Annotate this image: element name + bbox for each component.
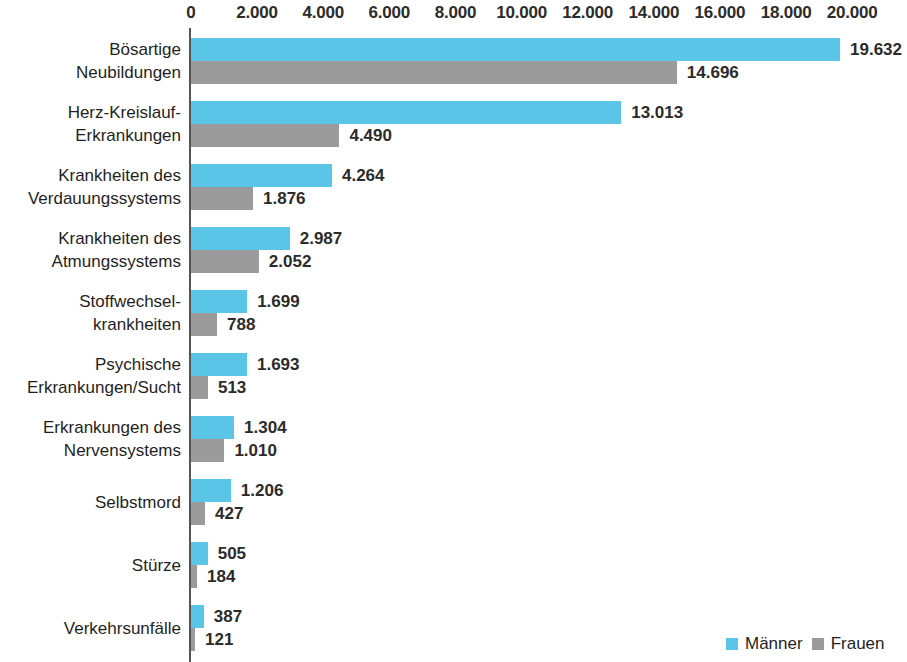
bar-value-frauen: 788 bbox=[227, 313, 255, 336]
bar-group: Krankheiten des Verdauungssystems4.2641.… bbox=[0, 164, 907, 210]
bar-value-maenner: 1.304 bbox=[244, 416, 287, 439]
bar-value-maenner: 1.693 bbox=[257, 353, 300, 376]
bar-group: Stoffwechsel- krankheiten1.699788 bbox=[0, 290, 907, 336]
category-label: Bösartige Neubildungen bbox=[0, 38, 181, 84]
bar-value-frauen: 14.696 bbox=[687, 61, 739, 84]
bar-value-frauen: 121 bbox=[205, 628, 233, 651]
category-label: Stürze bbox=[0, 554, 181, 577]
legend-item: Männer bbox=[726, 634, 803, 654]
x-axis: 02.0004.0006.0008.00010.00012.00014.0001… bbox=[0, 0, 907, 28]
bar-group: Krankheiten des Atmungssystems2.9872.052 bbox=[0, 227, 907, 273]
category-label: Selbstmord bbox=[0, 491, 181, 514]
legend-label: Frauen bbox=[831, 634, 885, 654]
bar-group: Psychische Erkrankungen/Sucht1.693513 bbox=[0, 353, 907, 399]
bar-maenner bbox=[191, 101, 621, 124]
x-axis-tick-label: 8.000 bbox=[435, 3, 477, 23]
bar-group: Herz-Kreislauf- Erkrankungen13.0134.490 bbox=[0, 101, 907, 147]
bar-maenner bbox=[191, 164, 332, 187]
x-axis-tick-label: 0 bbox=[186, 3, 195, 23]
plot-area: Bösartige Neubildungen19.63214.696Herz-K… bbox=[0, 28, 907, 662]
bar-maenner bbox=[191, 227, 290, 250]
category-label: Verkehrsunfälle bbox=[0, 617, 181, 640]
legend-label: Männer bbox=[745, 634, 803, 654]
bar-value-frauen: 1.010 bbox=[234, 439, 277, 462]
x-axis-tick-label: 16.000 bbox=[695, 3, 746, 23]
bar-value-frauen: 513 bbox=[218, 376, 246, 399]
bar-frauen bbox=[191, 250, 259, 273]
bar-frauen bbox=[191, 313, 217, 336]
bar-frauen bbox=[191, 439, 224, 462]
bar-maenner bbox=[191, 353, 247, 376]
bar-value-maenner: 19.632 bbox=[850, 38, 902, 61]
legend-item: Frauen bbox=[812, 634, 885, 654]
bar-frauen bbox=[191, 628, 195, 651]
bar-value-maenner: 13.013 bbox=[631, 101, 683, 124]
category-label: Krankheiten des Atmungssystems bbox=[0, 227, 181, 273]
bar-frauen bbox=[191, 61, 677, 84]
bar-group: Selbstmord1.206427 bbox=[0, 479, 907, 525]
bar-maenner bbox=[191, 479, 231, 502]
bar-value-maenner: 1.206 bbox=[241, 479, 284, 502]
x-axis-tick-label: 2.000 bbox=[236, 3, 278, 23]
bar-value-frauen: 4.490 bbox=[349, 124, 392, 147]
bar-group: Stürze505184 bbox=[0, 542, 907, 588]
x-axis-tick-label: 20.000 bbox=[827, 3, 878, 23]
bar-value-maenner: 505 bbox=[218, 542, 246, 565]
category-label: Krankheiten des Verdauungssystems bbox=[0, 164, 181, 210]
bar-value-maenner: 1.699 bbox=[257, 290, 300, 313]
bar-value-frauen: 1.876 bbox=[263, 187, 306, 210]
category-label: Psychische Erkrankungen/Sucht bbox=[0, 353, 181, 399]
x-axis-tick-label: 18.000 bbox=[761, 3, 812, 23]
bar-frauen bbox=[191, 376, 208, 399]
x-axis-tick-label: 6.000 bbox=[369, 3, 411, 23]
x-axis-tick-label: 4.000 bbox=[302, 3, 344, 23]
bar-frauen bbox=[191, 187, 253, 210]
chart-legend: MännerFrauen bbox=[726, 633, 885, 655]
legend-swatch-icon bbox=[726, 638, 738, 650]
bar-value-frauen: 427 bbox=[215, 502, 243, 525]
legend-swatch-icon bbox=[812, 638, 824, 650]
bar-maenner bbox=[191, 605, 204, 628]
bar-value-maenner: 387 bbox=[214, 605, 242, 628]
bar-value-frauen: 184 bbox=[207, 565, 235, 588]
bar-maenner bbox=[191, 542, 208, 565]
bar-group: Bösartige Neubildungen19.63214.696 bbox=[0, 38, 907, 84]
category-label: Erkrankungen des Nervensystems bbox=[0, 416, 181, 462]
x-axis-tick-label: 12.000 bbox=[562, 3, 613, 23]
bar-frauen bbox=[191, 502, 205, 525]
category-label: Herz-Kreislauf- Erkrankungen bbox=[0, 101, 181, 147]
bar-value-maenner: 4.264 bbox=[342, 164, 385, 187]
x-axis-tick-label: 10.000 bbox=[496, 3, 547, 23]
bar-chart: 02.0004.0006.0008.00010.00012.00014.0001… bbox=[0, 0, 907, 662]
category-label: Stoffwechsel- krankheiten bbox=[0, 290, 181, 336]
bar-maenner bbox=[191, 416, 234, 439]
bar-maenner bbox=[191, 290, 247, 313]
bar-maenner bbox=[191, 38, 840, 61]
bar-value-frauen: 2.052 bbox=[269, 250, 312, 273]
bar-frauen bbox=[191, 565, 197, 588]
bar-group: Erkrankungen des Nervensystems1.3041.010 bbox=[0, 416, 907, 462]
x-axis-tick-label: 14.000 bbox=[628, 3, 679, 23]
bar-frauen bbox=[191, 124, 339, 147]
bar-value-maenner: 2.987 bbox=[300, 227, 343, 250]
